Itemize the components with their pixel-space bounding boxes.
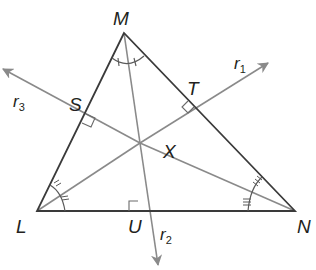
label-U: U: [128, 216, 142, 237]
label-r1: r1: [234, 54, 246, 75]
label-N: N: [297, 216, 311, 237]
tick-M-1: [118, 58, 119, 66]
right-angle-mark-U: [129, 201, 138, 211]
tick-L-1a: [54, 180, 59, 183]
label-S: S: [69, 94, 82, 115]
label-L: L: [16, 216, 27, 237]
label-r3: r3: [13, 92, 25, 113]
label-X: X: [162, 141, 177, 162]
ray-r1: [140, 63, 268, 143]
bisector-from-L: [37, 143, 140, 211]
label-r2: r2: [160, 225, 172, 246]
bisector-from-M: [124, 33, 140, 143]
tick-L-2a: [61, 196, 68, 197]
label-M: M: [113, 8, 129, 29]
geometry-diagram: M L N X S T U r1 r2 r3: [0, 0, 316, 270]
label-T: T: [187, 78, 200, 99]
tick-L-2b: [62, 199, 69, 200]
tick-L-1b: [56, 183, 61, 186]
ray-r2: [140, 143, 158, 265]
